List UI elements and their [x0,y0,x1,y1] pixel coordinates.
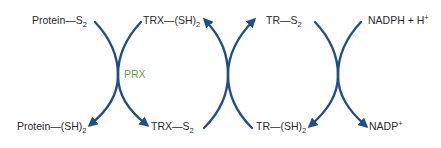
label-text: Protein—(SH) [17,120,82,132]
label-tr-sh2: TR—(SH)2 [256,120,306,132]
label-subscript: 2 [302,126,306,135]
label-protein-s2: Protein—S2 [32,14,87,26]
label-subscript: 2 [83,20,87,29]
label-subscript: 2 [196,20,200,29]
label-text: TRX—S [151,120,190,132]
label-text: NADP [369,120,398,132]
label-trx-sh2: TRX—(SH)2 [143,14,200,26]
label-protein-sh2: Protein—(SH)2 [17,120,87,132]
label-superscript: + [424,13,428,22]
label-text: TRX—(SH) [143,14,196,26]
label-superscript: + [398,119,402,128]
label-tr-s2: TR—S2 [266,14,302,26]
label-nadph-h: NADPH + H+ [368,14,429,26]
arrow-nadph-to-tr-sh2 [310,22,361,126]
label-text: TR—(SH) [256,120,302,132]
label-nadp: NADP+ [369,120,403,132]
label-subscript: 2 [298,20,302,29]
label-subscript: 2 [190,126,194,135]
redox-cycle-diagram: Protein—S2 TRX—(SH)2 TR—S2 NADPH + H+ Pr… [0,0,441,148]
label-text: TR—S [266,14,298,26]
arrow-tr-sh2-to-tr-s2 [228,20,254,128]
arrow-trx-s2-to-trx-sh2 [204,20,228,128]
label-text: NADPH + H [368,14,424,26]
arrow-tr-s2-to-nadp [315,22,366,126]
label-text: Protein—S [32,14,83,26]
label-trx-s2: TRX—S2 [151,120,194,132]
label-subscript: 2 [82,126,86,135]
enzyme-label-prx: PRX [124,68,146,80]
